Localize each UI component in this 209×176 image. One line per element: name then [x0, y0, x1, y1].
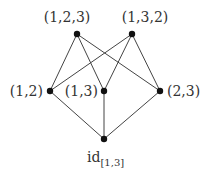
- node-1-2: [47, 88, 53, 94]
- hasse-diagram: (1,2,3) (1,3,2) (1,2) (1,3) (2,3) id[1,3…: [0, 0, 209, 176]
- edge-132-23: [132, 34, 160, 91]
- node-id: [101, 136, 107, 142]
- label-1-3: (1,3): [65, 83, 98, 99]
- edge-23-id: [104, 91, 160, 139]
- label-2-3: (2,3): [167, 83, 200, 99]
- node-1-2-3: [74, 31, 80, 37]
- node-1-3: [101, 88, 107, 94]
- edge-132-13: [104, 34, 132, 91]
- label-id-main: id: [87, 149, 100, 165]
- node-1-3-2: [129, 31, 135, 37]
- label-1-2: (1,2): [10, 83, 43, 99]
- label-1-3-2: (1,3,2): [122, 9, 169, 25]
- label-id: id[1,3]: [87, 149, 124, 168]
- label-id-subscript: [1,3]: [100, 157, 124, 168]
- node-2-3: [157, 88, 163, 94]
- label-1-2-3: (1,2,3): [44, 9, 91, 25]
